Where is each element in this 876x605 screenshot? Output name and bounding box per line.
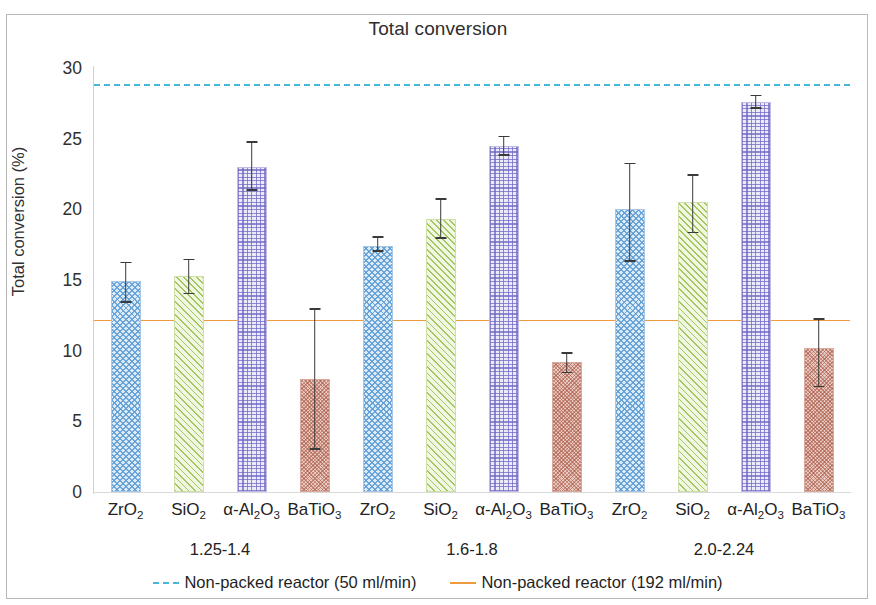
error-bar-cap-top (624, 163, 635, 165)
error-bar-line (314, 308, 316, 449)
x-axis-label: α-Al2O3 (727, 500, 784, 521)
reference-line-dashed (94, 84, 850, 86)
legend-item[interactable]: Non-packed reactor (192 ml/min) (450, 573, 722, 592)
x-axis-label: SiO2 (171, 500, 206, 521)
bar (426, 219, 456, 492)
error-bar-cap-bottom (309, 448, 320, 450)
error-bar-line (251, 141, 253, 190)
error-bar-cap-top (435, 198, 446, 200)
error-bar-cap-bottom (498, 154, 509, 156)
error-bar-cap-bottom (561, 372, 572, 374)
bar (489, 146, 519, 492)
error-bar-line (692, 174, 694, 233)
error-bar-line (818, 318, 820, 387)
bar (174, 276, 204, 492)
x-axis-group-label: 1.6-1.8 (446, 540, 497, 559)
x-axis-label: SiO2 (675, 500, 710, 521)
x-axis-group-label: 2.0-2.24 (694, 540, 755, 559)
error-bar-cap-top (498, 136, 509, 138)
legend-item[interactable]: Non-packed reactor (50 ml/min) (153, 573, 416, 592)
error-bar-cap-bottom (624, 260, 635, 262)
x-axis-label: ZrO2 (360, 500, 396, 521)
error-bar-cap-bottom (246, 189, 257, 191)
bar (237, 167, 267, 492)
error-bar-cap-bottom (813, 386, 824, 388)
x-axis-line (93, 492, 851, 493)
error-bar-line (125, 262, 127, 303)
bar (363, 246, 393, 492)
error-bar-cap-bottom (120, 301, 131, 303)
legend-label: Non-packed reactor (50 ml/min) (184, 573, 416, 592)
x-axis-label: BaTiO3 (288, 500, 342, 521)
x-axis-label: ZrO2 (612, 500, 648, 521)
error-bar-cap-bottom (435, 237, 446, 239)
error-bar-cap-top (813, 318, 824, 320)
legend-solid-line-icon (450, 582, 476, 584)
chart-title: Total conversion (0, 18, 876, 40)
error-bar-cap-top (687, 174, 698, 176)
chart-legend: Non-packed reactor (50 ml/min)Non-packed… (0, 573, 876, 592)
y-axis-title: Total conversion (%) (9, 12, 28, 432)
reference-line-solid (94, 320, 850, 321)
bar (111, 281, 141, 492)
bar (552, 362, 582, 492)
legend-label: Non-packed reactor (192 ml/min) (481, 573, 722, 592)
error-bar-cap-top (183, 259, 194, 261)
x-axis-label: α-Al2O3 (475, 500, 532, 521)
error-bar-cap-top (750, 95, 761, 97)
error-bar-cap-top (561, 352, 572, 354)
error-bar-cap-top (309, 308, 320, 310)
x-axis-label: SiO2 (423, 500, 458, 521)
error-bar-cap-bottom (183, 293, 194, 295)
error-bar-cap-bottom (687, 232, 698, 234)
x-axis-group-label: 1.25-1.4 (190, 540, 251, 559)
error-bar-line (629, 163, 631, 262)
bar (741, 102, 771, 492)
x-axis-label: BaTiO3 (792, 500, 846, 521)
x-axis-label: α-Al2O3 (223, 500, 280, 521)
error-bar-line (566, 352, 568, 373)
x-axis-label: BaTiO3 (540, 500, 594, 521)
error-bar-line (503, 136, 505, 156)
plot-area (94, 68, 850, 492)
error-bar-cap-top (246, 141, 257, 143)
x-axis-label: ZrO2 (108, 500, 144, 521)
error-bar-cap-top (120, 262, 131, 264)
error-bar-cap-bottom (372, 250, 383, 252)
error-bar-cap-bottom (750, 107, 761, 109)
error-bar-line (440, 198, 442, 239)
bar (678, 202, 708, 492)
error-bar-line (188, 259, 190, 294)
error-bar-cap-top (372, 236, 383, 238)
legend-dashed-line-icon (153, 582, 179, 584)
